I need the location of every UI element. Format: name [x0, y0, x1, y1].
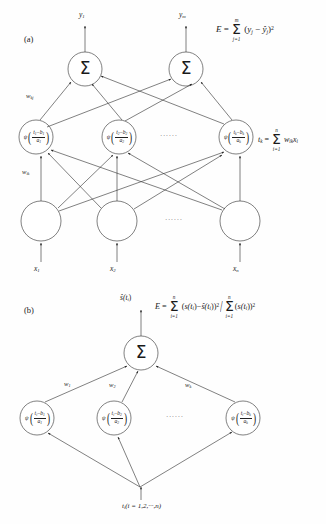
conn-i1-h2: [58, 155, 113, 208]
paren-open-icon: (: [228, 130, 231, 145]
panel-label-a: (a): [24, 34, 33, 44]
conn-h1-o1: [40, 82, 71, 120]
output-label-y1: y1: [79, 10, 85, 19]
paren-open-icon: (: [107, 411, 110, 426]
paren-close-icon: ): [47, 411, 50, 426]
tk-formula: tk = n Σ i=1 wikxi: [258, 128, 298, 152]
panel-label-b: (b): [24, 305, 34, 315]
hidden-node-b-2-text: ψ(ti−b2a2): [99, 411, 131, 426]
division-slash: /: [220, 301, 223, 313]
input-layer-ellipsis-a: ······: [165, 216, 183, 224]
weight-label-wik: wik: [22, 168, 29, 176]
output-node-2-symbol: Σ: [174, 58, 198, 78]
fraction-b3: ti−bkak: [240, 411, 252, 426]
conn-b-in-h3: [140, 432, 232, 487]
conn-h2-o1: [92, 84, 122, 120]
input-label-xn: xn: [233, 264, 239, 273]
conn-b-in-h1: [48, 433, 140, 487]
input-node-a-2: [97, 201, 137, 241]
input-label-b: ti(i = 1,2,···,n): [122, 502, 161, 510]
weight-label-wkj: wkj: [26, 92, 33, 100]
fraction-a3: tk−bkak: [232, 130, 245, 145]
paren-close-icon: ): [129, 130, 132, 145]
weight-label-b-w2: w2: [109, 381, 116, 389]
fraction-b1: ti−b1a1: [34, 411, 46, 426]
output-node-b-symbol: Σ: [129, 342, 153, 362]
paren-close-icon: ): [46, 130, 49, 145]
input-label-x1: x1: [34, 264, 40, 273]
paren-close-icon: ): [246, 130, 249, 145]
error-formula-a: E = m Σ j=1 (yj − ŷj)2: [216, 18, 274, 42]
figure-container: (a) y1 ym Σ Σ E = m Σ j=1 (yj − ŷj)2 wkj…: [0, 0, 326, 524]
input-label-x2: x2: [110, 264, 116, 273]
hidden-node-a-1-text: ψ(t1−b1a1): [21, 130, 53, 145]
paren-open-icon: (: [111, 130, 114, 145]
conn-b-in-h2: [118, 437, 140, 487]
input-node-a-1: [21, 201, 61, 241]
conn-h3-o2: [201, 82, 232, 120]
summation-b-denominator: n Σ i=1: [225, 295, 234, 319]
conn-i3-h1: [51, 150, 222, 210]
output-label-b: ŝ(ti): [120, 293, 131, 302]
paren-open-icon: (: [236, 411, 239, 426]
conn-b-h3-o: [156, 366, 235, 402]
conn-h1-o2: [47, 79, 171, 127]
fraction-a1: t1−b1a1: [32, 130, 45, 145]
paren-close-icon: ): [124, 411, 127, 426]
summation-a: m Σ j=1: [232, 18, 241, 42]
hidden-node-b-3-text: ψ(ti−bkak): [228, 411, 260, 426]
weight-label-b-w1: w1: [64, 380, 71, 388]
output-node-1-symbol: Σ: [73, 58, 97, 78]
weight-label-b-wk: wk: [185, 381, 191, 389]
summation-tk: n Σ i=1: [272, 128, 281, 152]
diagram-canvas: [0, 0, 326, 524]
hidden-layer-ellipsis-b: ······: [166, 413, 184, 421]
fraction-b2: ti−b2a2: [111, 411, 123, 426]
conn-i2-h1: [48, 153, 101, 208]
error-formula-b: E = n Σ i=1 (s(ti)−ŝ(ti))2/ n Σ i=1 (s(t…: [155, 295, 255, 319]
hidden-node-b-1-text: ψ(ti−b1a1): [22, 411, 54, 426]
hidden-node-a-2-text: ψ(t2−b2a2): [104, 130, 136, 145]
paren-open-icon: (: [28, 130, 31, 145]
hidden-layer-ellipsis-a: ······: [160, 132, 178, 140]
summation-b-numerator: n Σ i=1: [170, 295, 179, 319]
conn-b-h2-o: [122, 371, 138, 402]
input-node-a-3: [220, 201, 260, 241]
hidden-node-a-3-text: ψ(tk−bkak): [221, 130, 253, 145]
paren-close-icon: ): [253, 411, 256, 426]
paren-open-icon: (: [30, 411, 33, 426]
fraction-a2: t2−b2a2: [115, 130, 128, 145]
output-label-ym: ym: [179, 10, 186, 19]
